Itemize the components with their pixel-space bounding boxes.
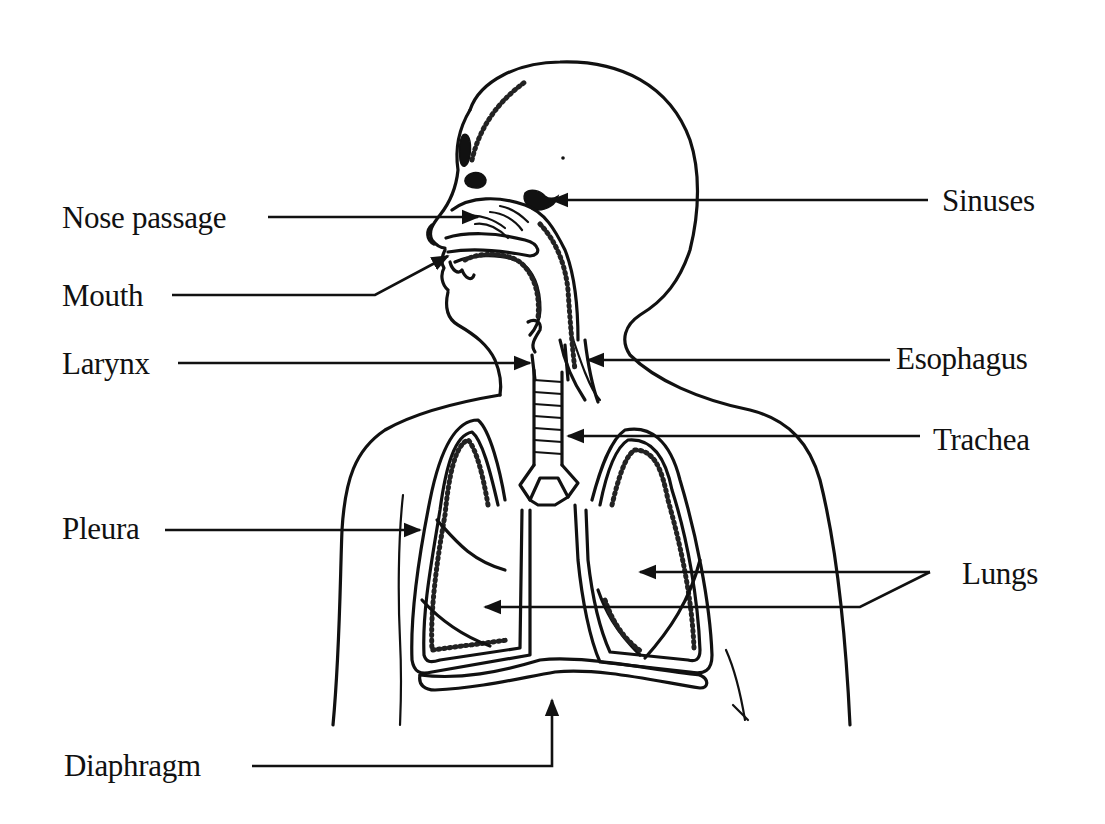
label-mouth: Mouth [62, 280, 143, 311]
label-lungs: Lungs [962, 558, 1038, 589]
label-larynx: Larynx [62, 348, 150, 379]
diaphragm-shape [420, 659, 707, 690]
label-nose-passage: Nose passage [62, 202, 226, 233]
head-interior [446, 82, 578, 380]
body-outline [333, 62, 850, 725]
leader-lines [165, 200, 930, 766]
label-diaphragm: Diaphragm [64, 750, 201, 781]
label-esophagus: Esophagus [896, 343, 1028, 374]
label-pleura: Pleura [62, 513, 139, 544]
label-trachea: Trachea [933, 424, 1030, 455]
anatomy-illustration [0, 0, 1105, 824]
respiratory-system-diagram [0, 0, 1105, 824]
label-sinuses: Sinuses [942, 185, 1035, 216]
